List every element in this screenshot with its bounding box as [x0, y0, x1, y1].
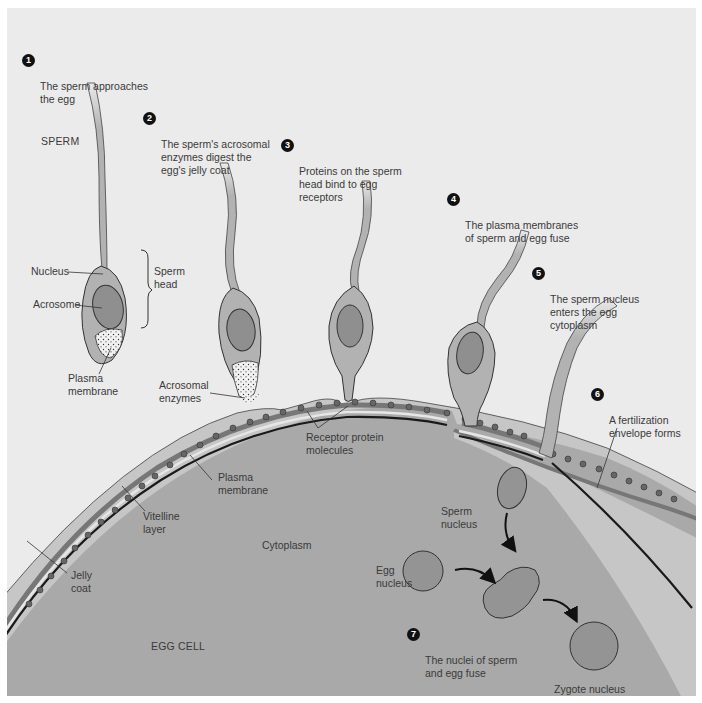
- label-egg-cell: EGG CELL: [151, 640, 205, 653]
- label-jelly-coat: Jelly coat: [71, 569, 92, 595]
- label-egg-plasma-membrane: Plasma membrane: [218, 471, 268, 497]
- diagram-graphic: [7, 8, 696, 696]
- step-7-annotation: 7 The nuclei of sperm and egg fuse: [407, 628, 517, 680]
- step-2-text: The sperm's acrosomal enzymes digest the…: [161, 138, 270, 176]
- step-badge-3: 3: [281, 139, 294, 152]
- sperm-4: [448, 230, 529, 426]
- step-5-text: The sperm nucleus enters the egg cytopla…: [550, 293, 639, 331]
- step-badge-6: 6: [591, 388, 604, 401]
- label-cytoplasm: Cytoplasm: [262, 539, 312, 552]
- label-zygote-nucleus: Zygote nucleus: [554, 683, 625, 696]
- label-egg-nucleus: Egg nucleus: [376, 564, 412, 590]
- step-badge-4: 4: [447, 193, 460, 206]
- zygote-nucleus-shape: [570, 622, 618, 670]
- label-sperm: SPERM: [41, 135, 79, 148]
- step-4-annotation: 4 The plasma membranes of sperm and egg …: [447, 193, 578, 245]
- step-badge-1: 1: [22, 54, 35, 67]
- step-6-text: A fertilization envelope forms: [609, 414, 681, 439]
- label-vitelline-layer: Vitelline layer: [143, 510, 180, 536]
- step-3-annotation: 3 Proteins on the sperm head bind to egg…: [281, 139, 402, 204]
- step-badge-7: 7: [407, 628, 420, 641]
- step-badge-2: 2: [143, 112, 156, 125]
- label-acrosome: Acrosome: [33, 298, 80, 311]
- sperm-1: [82, 83, 127, 364]
- step-5-annotation: 5 The sperm nucleus enters the egg cytop…: [532, 267, 639, 332]
- step-3-text: Proteins on the sperm head bind to egg r…: [299, 165, 402, 203]
- label-sperm-nucleus: Sperm nucleus: [441, 505, 477, 531]
- label-sperm-head: Sperm head: [154, 265, 185, 291]
- label-acrosomal-enzymes: Acrosomal enzymes: [159, 379, 209, 405]
- step-badge-5: 5: [532, 267, 545, 280]
- label-sperm-plasma-membrane: Plasma membrane: [68, 372, 118, 398]
- step-7-text: The nuclei of sperm and egg fuse: [425, 654, 517, 679]
- sperm-2: [219, 163, 261, 404]
- label-nucleus: Nucleus: [31, 265, 69, 278]
- step-1-text: The sperm approaches the egg: [40, 80, 148, 105]
- step-6-annotation: 6 A fertilization envelope forms: [591, 388, 681, 440]
- sperm-head-bracket: [141, 250, 152, 328]
- sperm-3: [329, 181, 373, 402]
- step-4-text: The plasma membranes of sperm and egg fu…: [465, 219, 578, 244]
- step-2-annotation: 2 The sperm's acrosomal enzymes digest t…: [143, 112, 270, 177]
- step-1-annotation: 1 The sperm approaches the egg: [22, 54, 148, 106]
- label-receptor-protein-molecules: Receptor protein molecules: [306, 431, 384, 457]
- fertilization-diagram: 1 The sperm approaches the egg 2 The spe…: [7, 8, 696, 696]
